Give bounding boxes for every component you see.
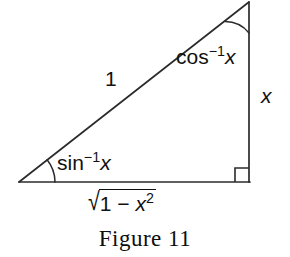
radicand-lead: 1 − bbox=[100, 192, 136, 215]
radicand: 1 − x2 bbox=[99, 189, 156, 214]
angle-arc-sin bbox=[47, 160, 55, 182]
triangle-diagram bbox=[0, 0, 290, 257]
opposite-leg-label-text: x bbox=[261, 84, 272, 107]
hypotenuse-label-text: 1 bbox=[105, 67, 117, 90]
angle-arc-cos bbox=[225, 22, 249, 33]
radicand-variable: x bbox=[135, 192, 146, 215]
arccos-function-name: cos bbox=[176, 45, 209, 68]
figure-container: 1 x sin−1x cos−1x √1 − x2 Figure 11 bbox=[0, 0, 290, 257]
arcsin-exponent: −1 bbox=[84, 149, 100, 165]
hypotenuse-label: 1 bbox=[105, 68, 117, 89]
adjacent-leg-label: √1 − x2 bbox=[88, 189, 156, 215]
hypotenuse-line bbox=[19, 2, 249, 182]
right-angle-marker-icon bbox=[235, 168, 249, 182]
opposite-leg-label: x bbox=[261, 85, 272, 106]
arcsin-function-name: sin bbox=[57, 151, 84, 174]
figure-caption: Figure 11 bbox=[0, 226, 290, 252]
radicand-exponent: 2 bbox=[146, 190, 154, 206]
angle-label-arcsin: sin−1x bbox=[57, 150, 111, 173]
radical-sign-icon: √ bbox=[88, 190, 100, 215]
radical-expression: √1 − x2 bbox=[88, 189, 156, 215]
arcsin-variable: x bbox=[100, 151, 111, 174]
angle-label-arccos: cos−1x bbox=[176, 44, 235, 67]
arccos-exponent: −1 bbox=[209, 43, 225, 59]
arccos-variable: x bbox=[225, 45, 236, 68]
